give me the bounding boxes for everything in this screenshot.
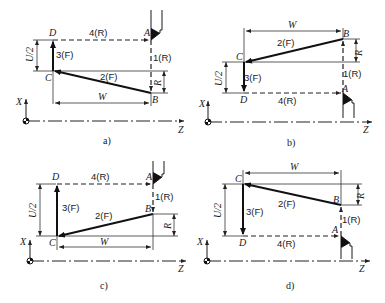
point-d: D bbox=[48, 27, 57, 38]
subfigure-c: D A B C 4(R) 3(F) 1(R) 2(F) U/2 W R X Z … bbox=[19, 161, 186, 292]
label-axis-z: Z bbox=[359, 263, 365, 274]
label-dim-r: R bbox=[152, 80, 163, 87]
label-dim-u: U/2 bbox=[212, 203, 223, 218]
point-a: A bbox=[341, 83, 349, 94]
label-move-4: 4(R) bbox=[278, 95, 296, 106]
subfigure-b: C B D A 2(F) 1(R) 3(F) 4(R) U/2 W R X Z … bbox=[198, 19, 372, 149]
subfigure-d: C B D A 2(F) 3(F) 1(R) 4(R) U/2 W R X Z … bbox=[196, 161, 370, 292]
point-a: A bbox=[331, 224, 339, 235]
cutting-tool-icon bbox=[153, 161, 164, 184]
label-move-3: 3(F) bbox=[246, 206, 263, 217]
label-move-3: 3(F) bbox=[244, 72, 261, 83]
point-a: A bbox=[145, 171, 153, 182]
caption-d: d) bbox=[286, 280, 294, 292]
label-move-4: 4(R) bbox=[277, 238, 295, 249]
label-dim-w: W bbox=[288, 19, 298, 30]
point-c: C bbox=[49, 237, 56, 248]
label-move-2: 2(F) bbox=[277, 37, 294, 48]
label-dim-w: W bbox=[98, 91, 108, 102]
cutting-tool-icon bbox=[151, 10, 162, 40]
label-dim-u: U/2 bbox=[213, 71, 224, 86]
move-2-feed bbox=[246, 39, 343, 62]
label-dim-w: W bbox=[100, 236, 110, 247]
label-move-3: 3(F) bbox=[56, 49, 73, 60]
label-move-1: 1(R) bbox=[342, 214, 360, 225]
label-move-1: 1(R) bbox=[153, 52, 171, 63]
label-axis-z: Z bbox=[178, 124, 184, 135]
label-axis-x: X bbox=[196, 236, 204, 247]
point-b: B bbox=[343, 28, 349, 39]
cutting-tool-icon bbox=[343, 93, 354, 118]
point-b: B bbox=[152, 94, 158, 105]
label-dim-r: R bbox=[355, 193, 366, 200]
point-c: C bbox=[45, 72, 52, 83]
subfigure-a: D A C B 4(R) 3(F) 1(R) 2(F) U/2 W R X Z … bbox=[15, 10, 184, 147]
label-move-3: 3(F) bbox=[62, 202, 79, 213]
caption-c: c) bbox=[100, 280, 108, 292]
point-d: D bbox=[238, 237, 247, 248]
diagram-canvas: D A C B 4(R) 3(F) 1(R) 2(F) U/2 W R X Z … bbox=[0, 0, 385, 303]
point-b: B bbox=[145, 203, 151, 214]
label-move-1: 1(R) bbox=[343, 68, 361, 79]
label-axis-x: X bbox=[15, 96, 23, 107]
cutting-tool-icon bbox=[341, 236, 352, 259]
point-d: D bbox=[239, 94, 248, 105]
label-move-1: 1(R) bbox=[155, 191, 173, 202]
label-move-4: 4(R) bbox=[89, 27, 107, 38]
caption-a: a) bbox=[103, 135, 111, 147]
label-move-2: 2(F) bbox=[95, 210, 112, 221]
label-dim-r: R bbox=[353, 50, 364, 57]
point-c: C bbox=[235, 173, 242, 184]
point-d: D bbox=[51, 171, 60, 182]
label-axis-x: X bbox=[198, 98, 206, 109]
label-axis-z: Z bbox=[363, 124, 369, 135]
label-dim-u: U/2 bbox=[24, 47, 35, 62]
label-move-4: 4(R) bbox=[91, 171, 109, 182]
label-dim-r: R bbox=[162, 223, 173, 230]
caption-b: b) bbox=[287, 137, 295, 149]
point-a: A bbox=[143, 27, 151, 38]
label-dim-w: W bbox=[290, 161, 300, 172]
label-move-2: 2(F) bbox=[278, 198, 295, 209]
label-axis-z: Z bbox=[178, 263, 184, 274]
point-c: C bbox=[236, 51, 243, 62]
label-dim-u: U/2 bbox=[27, 203, 38, 218]
label-axis-x: X bbox=[19, 236, 27, 247]
label-move-2: 2(F) bbox=[100, 71, 117, 82]
point-b: B bbox=[333, 194, 339, 205]
